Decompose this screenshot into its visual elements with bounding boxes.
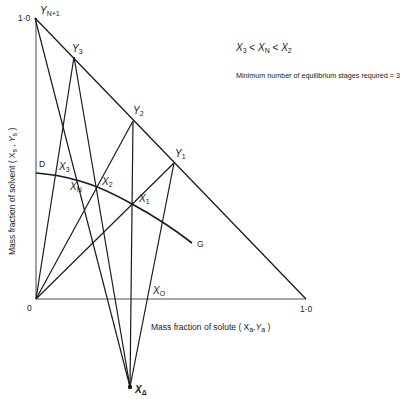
ineq-sub: 3 (243, 47, 247, 54)
y-max-label: 1·0 (18, 14, 30, 23)
point-label-sub: Δ (142, 389, 147, 396)
point-label-x2: X2 (102, 177, 113, 188)
point-label-y3: Y3 (72, 44, 83, 55)
point-label-sub: 1 (146, 198, 150, 205)
point-label-main: X (59, 161, 66, 172)
op-line-yn1-xdelta (35, 18, 130, 387)
point-label-sub: 2 (140, 110, 144, 117)
origin-label: 0 (27, 304, 32, 313)
point-label-main: X (135, 384, 142, 395)
point-label-sub: 3 (79, 48, 83, 55)
axis-label-text: ) (265, 322, 270, 332)
point-label-x-delta: XΔ (135, 385, 147, 396)
ineq-sub: 2 (288, 47, 292, 54)
x-max-label: 1·0 (300, 305, 312, 314)
point-label-main: Y (175, 148, 182, 159)
point-label-main: X (139, 193, 146, 204)
ineq-op: < (273, 42, 279, 53)
axis-label-text: ) (7, 128, 17, 133)
ineq-sub: N (265, 47, 270, 54)
point-label-sub: O (160, 290, 165, 297)
point-label-x1: X1 (139, 194, 150, 205)
point-label-main: Y (72, 43, 79, 54)
point-label-x3: X3 (59, 162, 70, 173)
point-label-main: Y (133, 105, 140, 116)
point-label-x0: XO (153, 286, 165, 297)
point-label-main: X (70, 181, 77, 192)
point-label-xn: XN (70, 182, 82, 193)
axis-label-text: Mass fraction of solvent ( X (7, 152, 17, 255)
stages-annotation: Minimum number of equilibrium stages req… (236, 72, 400, 79)
y-axis-label: Mass fraction of solvent ( Xs , Ys ) (8, 128, 18, 255)
solubility-curve (36, 173, 192, 243)
point-label-sub: 3 (66, 166, 70, 173)
axis-label-sub: s (11, 133, 18, 137)
point-label-yn1: YN+1 (40, 6, 60, 17)
point-label-sub: N (77, 186, 82, 193)
axis-label-text: Mass fraction of solute ( X (151, 322, 249, 332)
ineq-term: X (258, 42, 265, 53)
x-delta-point (128, 385, 132, 389)
point-label-main: X (153, 285, 160, 296)
op-line-y3-xdelta (74, 57, 130, 387)
axis-label-sub: s (11, 149, 18, 153)
curve-end-label-g: G (197, 240, 204, 249)
point-label-main: X (102, 176, 109, 187)
point-label-sub: N+1 (47, 10, 60, 17)
ineq-op: < (249, 42, 255, 53)
point-label-y1: Y1 (175, 149, 186, 160)
op-line-y1-xdelta (130, 163, 174, 387)
curve-start-label-d: D (39, 160, 45, 169)
axis-label-text: , Y (7, 136, 17, 149)
point-label-y2: Y2 (133, 106, 144, 117)
point-label-sub: 2 (109, 181, 113, 188)
axis-label-text: ,Y (253, 322, 261, 332)
hypotenuse-line (35, 18, 306, 299)
ineq-term: X (281, 42, 288, 53)
inequality-annotation: X3 < XN < X2 (236, 43, 292, 54)
x-axis-label: Mass fraction of solute ( Xa,Ya ) (151, 323, 270, 333)
op-line-y2-xdelta (130, 121, 133, 387)
ineq-term: X (236, 42, 243, 53)
point-label-sub: 1 (182, 153, 186, 160)
point-label-main: Y (40, 5, 47, 16)
